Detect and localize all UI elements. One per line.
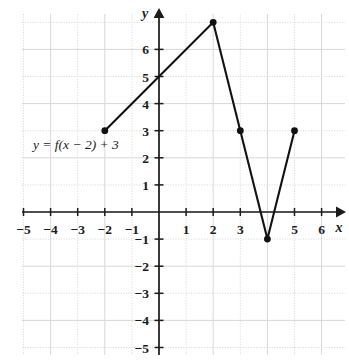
y-tick-label: 2	[142, 151, 149, 166]
axis-lines	[22, 8, 346, 355]
x-tick-label: 1	[183, 222, 190, 237]
y-tick-label: −4	[135, 313, 150, 328]
y-axis-arrow-icon	[154, 8, 165, 18]
y-tick-label: 1	[142, 178, 149, 193]
data-point-dot	[264, 236, 271, 243]
equation-annotation: y = f(x − 2) + 3	[31, 137, 119, 152]
x-tick-label: −3	[70, 222, 85, 237]
y-tick-label: 4	[142, 97, 149, 112]
x-tick-label: −4	[43, 222, 58, 237]
y-tick-label: −1	[135, 232, 150, 247]
data-point-dot	[101, 127, 108, 134]
x-axis-arrow-icon	[336, 207, 346, 218]
y-tick-label: −3	[135, 286, 150, 301]
x-tick-label: 3	[237, 222, 244, 237]
y-tick-label: 3	[142, 124, 149, 139]
y-axis-label: y	[140, 6, 149, 21]
tick-labels: −5−4−3−2−112356654321−1−2−3−4−5	[16, 42, 325, 355]
x-tick-label: 5	[291, 222, 298, 237]
y-tick-label: −5	[135, 341, 150, 356]
x-tick-label: −2	[98, 222, 113, 237]
data-point-dot	[291, 127, 298, 134]
graph-figure: −5−4−3−2−112356654321−1−2−3−4−5 y x y = …	[0, 0, 349, 363]
x-tick-label: −5	[16, 222, 31, 237]
data-point-dot	[210, 19, 217, 26]
x-axis-label: x	[335, 220, 343, 235]
x-tick-label: 6	[318, 222, 325, 237]
data-point-dot	[237, 127, 244, 134]
grid-lines	[22, 14, 345, 355]
y-tick-label: 6	[142, 42, 149, 57]
coordinate-plane: −5−4−3−2−112356654321−1−2−3−4−5 y x y = …	[0, 0, 349, 363]
y-tick-label: −2	[135, 259, 150, 274]
y-tick-label: 5	[142, 70, 149, 85]
x-tick-label: 2	[210, 222, 217, 237]
